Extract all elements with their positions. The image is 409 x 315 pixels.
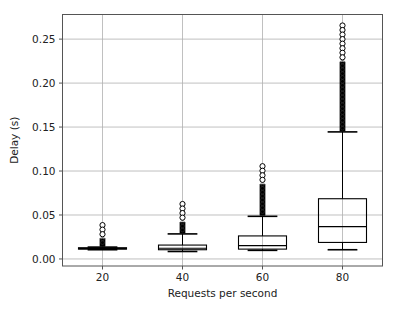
y-axis-tick-label: 0.10 <box>32 165 55 177</box>
x-axis-title: Requests per second <box>168 287 278 299</box>
outlier-point <box>340 55 345 60</box>
y-axis-tick-label: 0.20 <box>32 77 55 89</box>
y-axis-title: Delay (s) <box>8 117 20 164</box>
y-axis-tick-label: 0.15 <box>32 121 55 133</box>
y-axis-tick-label: 0.25 <box>32 33 55 45</box>
y-axis-tick-label: 0.00 <box>32 253 55 265</box>
x-axis-tick-label: 20 <box>96 271 109 283</box>
chart-canvas: 0.000.050.100.150.200.2520406080 Request… <box>0 0 409 315</box>
x-axis-tick-label: 40 <box>176 271 189 283</box>
x-axis-tick-label: 60 <box>256 271 269 283</box>
outlier-point <box>100 232 105 237</box>
outlier-point <box>180 215 185 220</box>
outlier-point <box>260 177 265 182</box>
box-plot-figure: 0.000.050.100.150.200.2520406080 Request… <box>0 0 409 315</box>
figure-background <box>0 0 409 315</box>
y-axis-tick-label: 0.05 <box>32 209 55 221</box>
x-axis-tick-label: 80 <box>336 271 349 283</box>
